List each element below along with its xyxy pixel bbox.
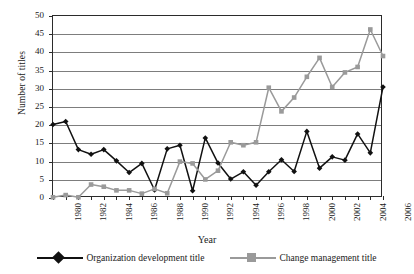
data-point <box>178 159 183 164</box>
data-point <box>88 152 94 158</box>
data-point <box>190 161 195 166</box>
data-point <box>51 195 56 200</box>
data-point <box>76 195 81 200</box>
x-axis-tick-label: 1986 <box>150 203 159 221</box>
x-axis-tick-label: 1980 <box>74 203 83 221</box>
y-axis-tick-label: 10 <box>20 157 44 166</box>
data-point <box>330 85 335 90</box>
data-point <box>305 74 310 79</box>
plot-area <box>52 15 382 197</box>
y-axis-tick-label: 15 <box>20 138 44 147</box>
x-axis-tick-label: 1988 <box>176 203 185 221</box>
x-axis-tick-label: 1998 <box>302 203 311 221</box>
legend-label-series-1: Change management title <box>279 253 376 263</box>
y-axis-tick-label: 40 <box>20 47 44 56</box>
y-axis-tick-label: 25 <box>20 102 44 111</box>
x-axis-tick-label: 1992 <box>226 203 235 221</box>
data-point <box>228 140 233 145</box>
data-point <box>177 142 183 148</box>
chart-legend: Organization development title Change ma… <box>0 253 414 263</box>
data-point <box>342 157 348 163</box>
data-point <box>203 177 208 182</box>
data-point <box>216 168 221 173</box>
y-axis-tick-label: 35 <box>20 66 44 75</box>
data-point <box>368 27 373 32</box>
x-axis-tick-label: 1984 <box>125 203 134 221</box>
y-axis-tick-label: 5 <box>20 175 44 184</box>
x-axis-tick-label: 2002 <box>353 203 362 221</box>
x-axis-tick <box>383 196 384 200</box>
data-point <box>76 147 82 153</box>
data-point <box>355 65 360 70</box>
x-axis-title: Year <box>0 234 414 245</box>
data-point <box>63 193 68 198</box>
data-point <box>266 85 271 90</box>
data-point <box>190 188 196 194</box>
data-point <box>304 129 310 135</box>
y-axis-tick-label: 20 <box>20 120 44 129</box>
y-axis-tick-label: 50 <box>20 11 44 20</box>
y-axis-tick-label: 45 <box>20 29 44 38</box>
data-point <box>140 191 145 196</box>
data-point <box>127 188 132 193</box>
legend-item-organization-development-title: Organization development title <box>37 253 204 263</box>
data-point <box>241 143 246 148</box>
x-axis-tick-label: 1982 <box>99 203 108 221</box>
x-axis-tick-label: 2006 <box>404 203 413 221</box>
data-point <box>89 182 94 187</box>
chart-figure: Number of titles 05101520253035404550 19… <box>0 0 414 274</box>
y-axis-tick-label: 30 <box>20 84 44 93</box>
data-point <box>317 56 322 61</box>
x-axis-tick-label: 1994 <box>252 203 261 221</box>
series-1 <box>51 27 386 199</box>
series-0 <box>50 84 386 193</box>
data-point <box>381 54 386 59</box>
x-axis-tick-label: 1996 <box>277 203 286 221</box>
legend-label-series-0: Organization development title <box>86 253 204 263</box>
data-point <box>343 70 348 75</box>
x-axis-tick-label: 2000 <box>328 203 337 221</box>
data-point <box>152 187 157 192</box>
data-point <box>292 95 297 100</box>
data-point <box>165 191 170 196</box>
data-point <box>254 140 259 145</box>
data-point <box>63 119 69 125</box>
series-layer <box>53 16 383 198</box>
data-point <box>279 109 284 114</box>
y-axis-tick-label: 0 <box>20 193 44 202</box>
data-point <box>101 184 106 189</box>
data-point <box>164 146 170 152</box>
data-point <box>203 135 209 141</box>
x-axis-tick-label: 1990 <box>201 203 210 221</box>
data-point <box>380 84 386 90</box>
data-point <box>114 188 119 193</box>
legend-item-change-management-title: Change management title <box>230 253 376 263</box>
data-point <box>50 122 56 128</box>
x-axis-tick-label: 2004 <box>379 203 388 221</box>
series-line <box>53 87 383 191</box>
